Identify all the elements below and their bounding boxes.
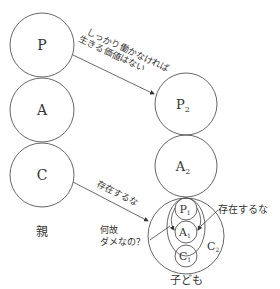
child-a1-label: A1 [178, 226, 191, 239]
parent-c-label: C [37, 167, 48, 183]
child-c2-label: C2 [207, 240, 219, 253]
parent-p-label: P [37, 37, 46, 53]
svg-text:存在するな: 存在するな [95, 178, 140, 208]
child-label: 子ども [170, 274, 203, 287]
why-line2: ダメなの？ [100, 236, 145, 247]
child-a2-circle [155, 135, 217, 197]
parent-label: 親 [36, 225, 48, 239]
ego-state-diagram: P A C 親 P2 A2 P1 A1 C1 C2 子ども しっかり働かなければ… [0, 0, 280, 289]
why-line1: 何故 [100, 224, 118, 235]
parent-ego-states: P A C 親 [10, 13, 74, 239]
internal-arrow-left [171, 208, 175, 230]
dont-exist-side-label: 存在するな [218, 203, 268, 215]
message-work: しっかり働かなければ 生きる価値はない [77, 24, 171, 83]
parent-a-label: A [36, 102, 48, 118]
child-ego-states: P2 A2 P1 A1 C1 C2 子ども [148, 73, 224, 287]
child-p1-label: P1 [179, 203, 190, 216]
child-c1-label: C1 [179, 250, 191, 263]
child-a2-label: A2 [175, 159, 190, 176]
child-p2-label: P2 [176, 97, 190, 114]
child-p2-circle [155, 73, 217, 135]
dont-exist-leader-line [199, 210, 218, 228]
message-dont-exist: 存在するな [95, 178, 140, 208]
